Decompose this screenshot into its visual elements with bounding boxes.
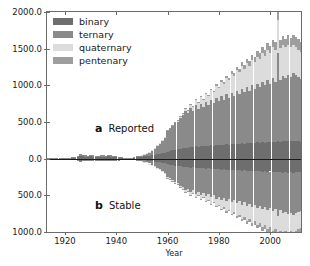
legend-item-ternary: ternary bbox=[53, 28, 132, 41]
x-tick-mark-inner bbox=[65, 12, 66, 15]
x-tick-label: 1920 bbox=[54, 237, 76, 246]
x-tick-mark bbox=[219, 232, 220, 235]
y-tick-mark-inner bbox=[47, 195, 50, 196]
legend-label-ternary: ternary bbox=[79, 30, 114, 40]
panel-text-reported: Reported bbox=[108, 124, 154, 134]
y-tick-mark-inner bbox=[47, 49, 50, 50]
legend-item-quaternary: quaternary bbox=[53, 41, 132, 54]
legend-label-quaternary: quaternary bbox=[79, 43, 132, 53]
y-tick-mark-inner bbox=[47, 122, 50, 123]
bar-segment-binary bbox=[300, 159, 301, 172]
x-tick-mark bbox=[270, 232, 271, 235]
y-tick-mark-inner bbox=[47, 159, 50, 160]
legend-item-binary: binary bbox=[53, 15, 132, 28]
legend-swatch-binary bbox=[53, 18, 73, 25]
legend-label-binary: binary bbox=[79, 17, 109, 27]
bar-segment-quaternary bbox=[300, 211, 301, 228]
y-tick-label: 0.0 bbox=[28, 154, 42, 163]
panel-text-stable: Stable bbox=[109, 201, 141, 211]
bar-segment-ternary bbox=[300, 172, 301, 211]
y-tick-mark-inner bbox=[47, 232, 50, 233]
panel-letter-b: b bbox=[95, 200, 103, 211]
y-tick-label: 500.0 bbox=[18, 118, 42, 127]
y-tick-label: 500.0 bbox=[18, 191, 42, 200]
y-tick-mark-inner bbox=[47, 12, 50, 13]
x-tick-mark-inner bbox=[270, 12, 271, 15]
y-tick-label: 1000.0 bbox=[12, 228, 42, 237]
x-tick-mark-inner bbox=[219, 12, 220, 15]
legend-swatch-quaternary bbox=[53, 44, 73, 51]
x-tick-mark bbox=[65, 232, 66, 235]
panel-annotation-stable: b Stable bbox=[95, 200, 141, 211]
zero-baseline bbox=[47, 159, 301, 160]
legend-swatch-ternary bbox=[53, 31, 73, 38]
y-tick-label: 1500.0 bbox=[12, 44, 42, 53]
y-tick-label: 1000.0 bbox=[12, 81, 42, 90]
x-tick-label: 1980 bbox=[208, 237, 230, 246]
y-tick-label: 2000.0 bbox=[12, 8, 42, 17]
bar-segment-pentenary bbox=[300, 228, 301, 232]
chart-figure: # of Structures Discovered in Year Year … bbox=[0, 0, 310, 266]
plot-area: binary ternary quaternary pentenary a Re… bbox=[46, 11, 302, 233]
x-tick-label: 2000 bbox=[259, 237, 281, 246]
x-tick-label: 1960 bbox=[157, 237, 179, 246]
y-tick-mark-inner bbox=[47, 85, 50, 86]
x-axis-title: Year bbox=[166, 249, 183, 258]
panel-annotation-reported: a Reported bbox=[95, 123, 154, 134]
x-tick-mark-inner bbox=[168, 12, 169, 15]
legend-label-pentenary: pentenary bbox=[79, 56, 128, 66]
bar-group bbox=[300, 12, 301, 232]
panel-letter-a: a bbox=[95, 123, 102, 134]
legend-item-pentenary: pentenary bbox=[53, 54, 132, 67]
x-tick-mark bbox=[168, 232, 169, 235]
chart-legend: binary ternary quaternary pentenary bbox=[53, 15, 132, 67]
x-tick-mark-inner bbox=[116, 12, 117, 15]
legend-swatch-pentenary bbox=[53, 57, 73, 64]
x-tick-label: 1940 bbox=[105, 237, 127, 246]
x-tick-mark bbox=[116, 232, 117, 235]
